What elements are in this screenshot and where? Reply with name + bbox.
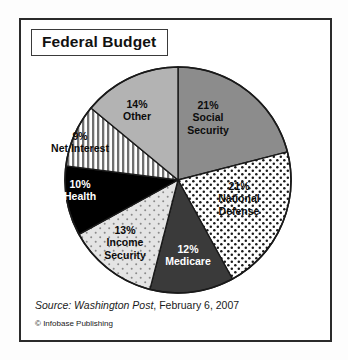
figure-footer: Source: Washington Post, February 6, 200… — [35, 299, 320, 328]
figure-root: Federal Budget — [0, 0, 348, 360]
page-title: Federal Budget — [42, 33, 156, 51]
pie-chart: 21% Social Security 21% National Defense… — [21, 56, 330, 290]
publisher-name: Infobase Publishing — [43, 319, 113, 328]
pie-slices — [65, 67, 291, 293]
pie-chart-svg — [62, 64, 294, 296]
source-date: , February 6, 2007 — [153, 299, 239, 311]
source-note: Source: Washington Post, February 6, 200… — [35, 299, 320, 311]
chart-frame: Federal Budget — [19, 18, 332, 342]
title-box: Federal Budget — [31, 29, 168, 56]
source-publication: Washington Post — [74, 299, 153, 311]
publisher-credit: © Infobase Publishing — [35, 319, 320, 328]
source-prefix: Source: — [35, 299, 71, 311]
